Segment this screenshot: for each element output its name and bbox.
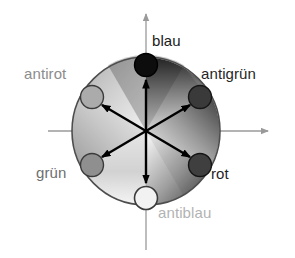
label-antigruen: antigrün — [201, 66, 256, 81]
label-antirot: antirot — [24, 66, 66, 81]
label-rot: rot — [211, 166, 229, 181]
color-charge-diagram — [0, 0, 295, 258]
label-antiblau: antiblau — [158, 205, 211, 220]
label-blau: blau — [152, 33, 181, 48]
node-antiblau[interactable] — [135, 187, 158, 210]
label-gruen: grün — [36, 165, 66, 180]
node-antigruen[interactable] — [189, 86, 212, 109]
node-rot[interactable] — [189, 154, 212, 177]
figure-canvas: blau antirot antigrün grün rot antiblau — [0, 0, 295, 258]
node-blau[interactable] — [135, 54, 158, 77]
node-antirot[interactable] — [81, 86, 104, 109]
node-gruen[interactable] — [81, 154, 104, 177]
